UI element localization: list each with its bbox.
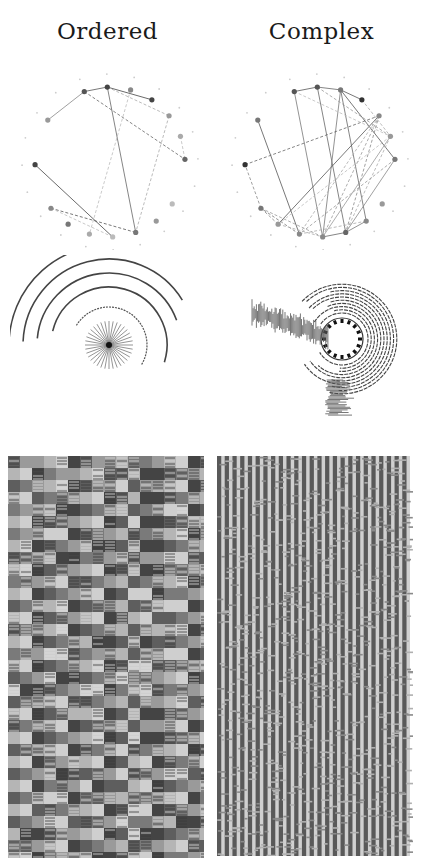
raster-noise — [227, 812, 231, 814]
raster-noise — [284, 846, 291, 848]
raster-noise — [281, 616, 289, 618]
spiral-arc — [76, 307, 147, 365]
raster-block — [188, 792, 200, 804]
raster-noise — [392, 747, 397, 749]
raster-noise — [300, 702, 304, 704]
raster-noise — [295, 833, 302, 835]
raster-block — [80, 708, 92, 720]
raster-block — [176, 492, 188, 504]
raster-block — [56, 684, 68, 696]
graph-edge — [48, 92, 84, 121]
raster-block — [164, 744, 176, 756]
raster-noise — [324, 807, 332, 809]
raster-noise — [221, 793, 229, 795]
raster-block — [32, 576, 44, 588]
raster-stripe — [371, 456, 375, 856]
raster-noise — [296, 824, 299, 826]
raster-noise — [275, 818, 283, 820]
raster-noise — [219, 714, 224, 716]
ring-marker — [333, 353, 337, 358]
raster-noise — [377, 653, 384, 655]
raster-noise — [244, 630, 249, 632]
raster-stripe — [310, 456, 314, 856]
raster-noise — [279, 768, 284, 770]
raster-noise — [323, 512, 327, 514]
raster-block — [8, 576, 20, 588]
raster-noise — [335, 614, 342, 616]
raster-block — [116, 792, 128, 804]
graph-node — [105, 84, 110, 89]
raster-block — [32, 840, 44, 852]
raster-noise — [267, 561, 272, 563]
raster-noise — [401, 807, 405, 809]
complex-raster-pattern — [217, 456, 413, 856]
raster-noise — [365, 716, 369, 718]
raster-noise — [271, 713, 280, 715]
raster-block — [8, 696, 20, 708]
raster-noise — [357, 748, 361, 750]
raster-noise — [293, 747, 300, 749]
raster-noise — [238, 748, 241, 750]
raster-noise — [316, 540, 323, 542]
raster-noise — [293, 677, 298, 679]
raster-noise — [389, 511, 396, 513]
raster-noise — [302, 730, 306, 732]
raster-block — [68, 744, 80, 756]
raster-block — [188, 624, 200, 636]
raster-block — [140, 816, 152, 828]
raster-block — [104, 804, 116, 816]
raster-block — [92, 492, 104, 504]
raster-noise — [366, 589, 372, 591]
raster-noise — [324, 843, 328, 845]
node-label-mark — [197, 158, 199, 160]
raster-noise — [375, 506, 378, 508]
raster-noise — [339, 471, 343, 473]
raster-block — [20, 720, 32, 732]
raster-block — [176, 480, 188, 492]
raster-noise — [258, 578, 264, 580]
graph-node — [388, 134, 393, 139]
raster-noise — [288, 543, 293, 545]
graph-edge — [261, 208, 278, 224]
raster-block — [44, 612, 56, 624]
raster-block — [20, 468, 32, 480]
raster-block — [128, 696, 140, 708]
complex-spiral-diagram — [230, 270, 410, 430]
raster-noise — [294, 735, 298, 737]
node-label-mark — [24, 137, 26, 139]
graph-node — [359, 97, 364, 102]
raster-block — [80, 624, 92, 636]
raster-block — [116, 600, 128, 612]
raster-noise — [358, 564, 362, 566]
raster-noise — [230, 669, 237, 671]
raster-stripe — [348, 456, 352, 856]
raster-block — [80, 780, 92, 792]
raster-noise — [254, 614, 260, 616]
ordered-spiral-diagram — [10, 255, 210, 405]
raster-noise — [318, 659, 325, 661]
raster-noise — [247, 728, 256, 730]
raster-noise — [396, 555, 402, 557]
raster-noise — [275, 618, 281, 620]
raster-noise — [402, 821, 409, 823]
raster-noise — [388, 816, 392, 818]
raster-noise — [351, 570, 357, 572]
raster-noise — [352, 496, 357, 498]
raster-noise — [247, 810, 252, 812]
raster-noise — [296, 713, 301, 715]
raster-noise — [227, 480, 233, 482]
raster-noise — [287, 843, 292, 845]
raster-noise — [224, 537, 233, 539]
raster-noise — [302, 580, 306, 582]
raster-block — [152, 516, 164, 528]
raster-noise — [407, 678, 412, 680]
raster-noise — [385, 810, 393, 812]
raster-noise — [366, 853, 370, 855]
raster-block — [92, 648, 104, 660]
raster-noise — [239, 639, 245, 641]
raster-block — [128, 816, 140, 828]
raster-noise — [283, 504, 287, 506]
raster-noise — [301, 545, 305, 547]
raster-noise — [256, 803, 259, 805]
raster-block — [8, 540, 20, 552]
